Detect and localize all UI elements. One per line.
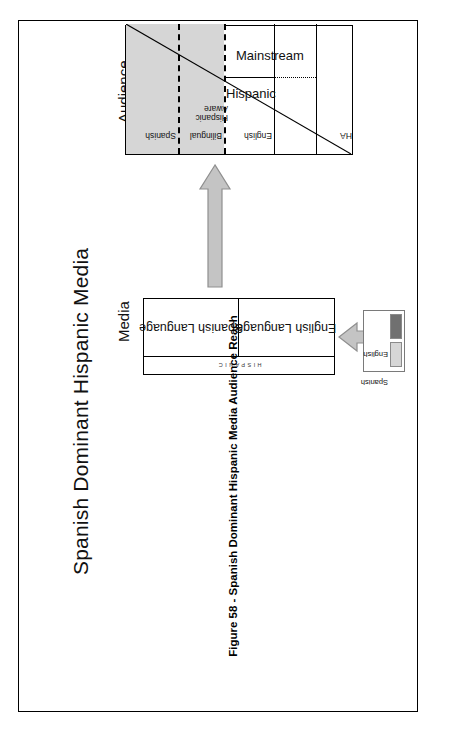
legend-swatch-english xyxy=(390,314,402,339)
media-box: HISPANIC Spanish Language English Langua… xyxy=(143,298,335,375)
audience-label-ha: HA xyxy=(340,131,352,141)
legend-item-spanish-label: Spanish xyxy=(368,367,388,387)
divider-ha-mainstream xyxy=(316,24,317,154)
media-spine-label: HISPANIC xyxy=(216,363,261,369)
audience-box: Spanish Bilingual English Hispanic Aware… xyxy=(125,25,353,155)
audience-label-bilingual: Bilingual xyxy=(190,131,222,141)
media-cell-english-language-label: English Language xyxy=(236,320,336,334)
tick-hispanic-aware xyxy=(224,77,274,78)
arrow-media-to-audience xyxy=(195,163,235,289)
audience-group-label-hispanic: Hispanic xyxy=(226,86,276,101)
column-caption-media: Media xyxy=(115,301,132,342)
legend-swatch-spanish xyxy=(390,342,402,367)
media-cell-spanish-language: Spanish Language xyxy=(144,299,239,356)
divider-spanish-bilingual xyxy=(178,24,180,154)
audience-label-english: English xyxy=(244,131,272,141)
legend-item-english-label: English xyxy=(368,339,388,359)
media-spine-hispanic: HISPANIC xyxy=(144,356,334,374)
legend-item-english: English xyxy=(368,314,402,339)
figure-caption: Figure 58 - Spanish Dominant Hispanic Me… xyxy=(227,276,239,696)
tick-ha-column xyxy=(274,77,316,78)
legend: Spanish English xyxy=(363,310,405,372)
audience-group-label-mainstream: Mainstream xyxy=(236,48,304,63)
audience-label-hispanic-aware: Hispanic Aware xyxy=(184,103,228,122)
media-cell-english-language: English Language xyxy=(239,299,334,356)
page-title: Spanish Dominant Hispanic Media xyxy=(69,0,93,575)
audience-label-spanish: Spanish xyxy=(145,131,176,141)
